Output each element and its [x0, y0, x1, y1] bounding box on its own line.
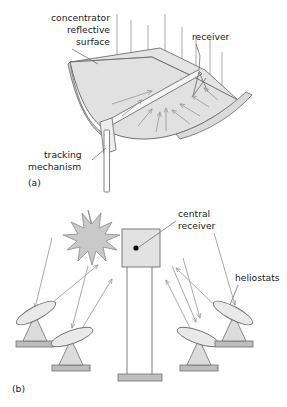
panel-b-tag: (b)	[12, 383, 25, 394]
heliostat-ground-pad	[215, 341, 253, 347]
tracking-label-line2: mechanism	[28, 161, 81, 172]
concentrator-label-line3: surface	[76, 36, 110, 47]
tracking-post	[104, 130, 110, 192]
central-receiver-label-line2: receiver	[178, 220, 216, 231]
concentrator-label-line2: reflective	[67, 24, 110, 35]
solar-concentrator-figure: concentrator reflective surface receiver…	[0, 0, 287, 407]
heliostat-ground-pad	[16, 341, 54, 347]
concentrator-label-line1: concentrator	[51, 12, 110, 23]
tracking-label-line1: tracking	[44, 149, 82, 160]
tower-base	[118, 374, 162, 381]
receiver-aperture-dot	[133, 245, 138, 250]
panel-a-tag: (a)	[28, 177, 41, 188]
heliostat-ground-pad	[52, 365, 90, 371]
heliostats-label: heliostats	[235, 272, 280, 283]
central-receiver-label-line1: central	[178, 208, 210, 219]
receiver-label: receiver	[192, 31, 230, 42]
heliostat-ground-pad	[180, 365, 218, 371]
central-receiver-box	[122, 229, 160, 267]
